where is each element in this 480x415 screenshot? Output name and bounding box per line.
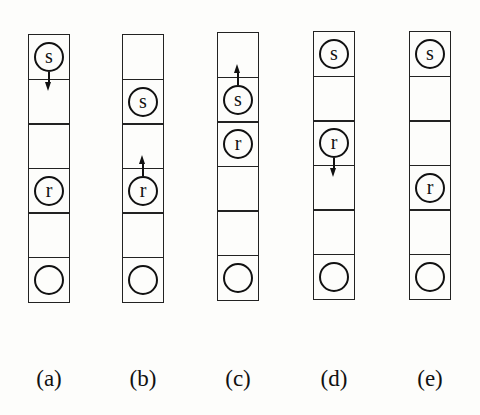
column-label: (d) xyxy=(304,366,364,392)
token-symbol: s xyxy=(330,43,338,63)
grid-cell xyxy=(28,123,70,169)
grid-column-b: sr xyxy=(122,34,164,310)
token-symbol: r xyxy=(331,132,338,152)
grid-cell xyxy=(409,120,451,166)
token-s-icon: s xyxy=(415,39,445,69)
goal-circle-icon xyxy=(223,263,253,293)
grid-cell xyxy=(122,212,164,258)
token-r-icon: r xyxy=(128,176,158,206)
token-symbol: r xyxy=(427,177,434,197)
grid-cell xyxy=(122,34,164,80)
goal-circle-icon xyxy=(415,262,445,292)
goal-circle-icon xyxy=(34,265,64,295)
grid-cell xyxy=(217,166,259,212)
token-r-icon: r xyxy=(34,176,64,206)
column-label: (a) xyxy=(19,366,79,392)
grid-column-c: sr xyxy=(217,32,259,308)
token-r-icon: r xyxy=(223,129,253,159)
token-r-icon: r xyxy=(415,173,445,203)
grid-cell xyxy=(313,209,355,255)
column-label: (e) xyxy=(400,366,460,392)
grid-cell xyxy=(217,210,259,256)
token-symbol: s xyxy=(234,89,242,109)
token-symbol: r xyxy=(140,180,147,200)
token-s-icon: s xyxy=(223,85,253,115)
grid-cell xyxy=(28,212,70,258)
grid-cell xyxy=(313,76,355,122)
token-symbol: r xyxy=(235,133,242,153)
grid-cell xyxy=(409,209,451,255)
token-symbol: s xyxy=(139,91,147,111)
token-symbol: r xyxy=(46,180,53,200)
grid-column-a: sr xyxy=(28,34,70,310)
grid-column-e: sr xyxy=(409,31,451,307)
grid-cell xyxy=(409,76,451,122)
token-symbol: s xyxy=(426,43,434,63)
column-label: (c) xyxy=(208,366,268,392)
token-s-icon: s xyxy=(128,87,158,117)
goal-circle-icon xyxy=(319,262,349,292)
token-s-icon: s xyxy=(319,39,349,69)
goal-circle-icon xyxy=(128,265,158,295)
grid-column-d: sr xyxy=(313,31,355,307)
token-s-icon: s xyxy=(34,42,64,72)
token-r-icon: r xyxy=(319,128,349,158)
column-label: (b) xyxy=(113,366,173,392)
token-symbol: s xyxy=(45,46,53,66)
